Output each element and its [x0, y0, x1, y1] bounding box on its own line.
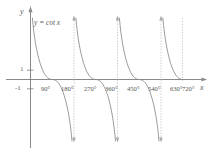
- asymptote-180: [72, 16, 75, 143]
- x-axis: [6, 78, 207, 82]
- y-tick-label-neg1: -1: [15, 85, 21, 92]
- x-tick-label-360: 360°: [105, 85, 118, 92]
- x-tick-label-180: 180°: [61, 85, 74, 92]
- curve-equation-label: y = cot x: [34, 19, 60, 26]
- cot-branch-4: [163, 18, 183, 80]
- x-axis-name: x: [200, 84, 204, 91]
- cotangent-graph-figure: y x y = cot x 1 -1 90° 180° 270° 360° 45…: [0, 0, 211, 151]
- y-axis-name: y: [20, 8, 24, 15]
- x-tick-label-450: 450°: [127, 85, 140, 92]
- x-tick-label-270: 270°: [84, 85, 97, 92]
- asymptote-360: [116, 16, 119, 143]
- asymptote-540: [159, 16, 162, 143]
- y-axis: [28, 7, 32, 149]
- x-tick-label-720: 720°: [182, 85, 195, 92]
- x-tick-label-630: 630°: [170, 85, 183, 92]
- x-tick-label-540: 540°: [148, 85, 161, 92]
- x-tick-label-90: 90°: [41, 85, 50, 92]
- plot-canvas: [0, 0, 211, 151]
- y-tick-label-1: 1: [20, 66, 24, 73]
